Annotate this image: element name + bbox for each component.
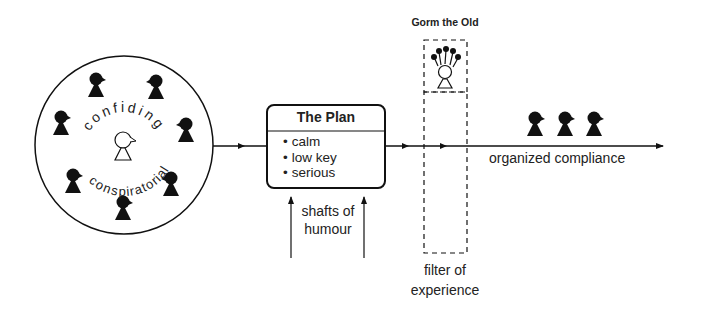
- humour-label: shafts of humour: [300, 202, 356, 238]
- person-icon: [146, 75, 164, 100]
- person-icon: [527, 112, 545, 137]
- filter-label: filter of experience: [405, 260, 485, 300]
- plan-item: serious: [283, 165, 337, 181]
- gorm-icon: [431, 46, 461, 88]
- plan-item: low key: [283, 150, 337, 166]
- leader-icon: [115, 132, 136, 160]
- person-icon: [88, 73, 106, 98]
- compliant-group: [527, 112, 604, 137]
- person-icon: [586, 112, 604, 137]
- person-icon: [176, 118, 194, 143]
- plan-title: The Plan: [267, 109, 385, 125]
- confiding-label: confiding: [79, 99, 169, 133]
- person-icon: [115, 196, 133, 221]
- gorm-label: Gorm the Old: [405, 16, 485, 28]
- conspiratorial-label: conspiratorial: [86, 164, 171, 200]
- person-icon: [557, 112, 575, 137]
- person-icon: [53, 111, 71, 136]
- person-icon: [65, 169, 83, 194]
- plan-items: calm low key serious: [283, 134, 337, 181]
- filter-column: [424, 92, 467, 253]
- compliance-label: organized compliance: [489, 150, 625, 166]
- plan-item: calm: [283, 134, 337, 150]
